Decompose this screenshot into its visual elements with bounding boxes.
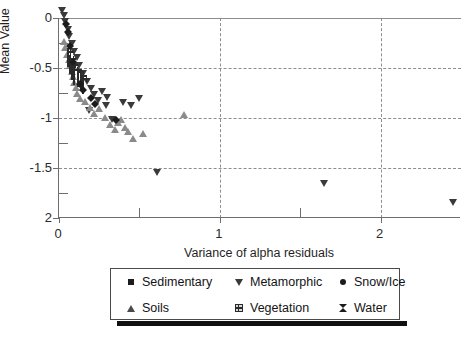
x-tick-label: 0 xyxy=(38,226,78,241)
x-minor-tick xyxy=(300,208,301,217)
grid-square-marker-icon xyxy=(235,304,243,312)
legend-swatch xyxy=(125,305,136,312)
x-minor-tick xyxy=(139,208,140,217)
y-tick-label: -0.5 xyxy=(10,60,52,75)
legend-swatch xyxy=(125,279,136,285)
legend-label: Soils xyxy=(142,301,169,315)
y-minor-tick xyxy=(59,143,68,144)
legend-item-metamorphic[interactable]: Metamorphic xyxy=(233,275,337,289)
legend-label: Water xyxy=(354,301,387,315)
legend-label: Metamorphic xyxy=(250,275,322,289)
circle-marker-icon xyxy=(340,279,346,285)
x-tick-label: 2 xyxy=(360,226,400,241)
triangle-down-marker-icon xyxy=(449,199,457,223)
legend-grid: SedimentaryMetamorphicSnow/IceSoilsVeget… xyxy=(111,269,401,321)
gridline-y-0 xyxy=(59,18,461,19)
y-tick xyxy=(53,68,59,69)
x-axis-title: Variance of alpha residuals xyxy=(58,246,460,260)
scatter-plot-figure: Mean Value Variance of alpha residuals 0… xyxy=(0,0,474,338)
x-tick xyxy=(220,217,221,223)
chart-legend: SedimentaryMetamorphicSnow/IceSoilsVeget… xyxy=(110,268,400,320)
triangle-up-marker-icon xyxy=(127,305,135,312)
triangle-down-marker-icon xyxy=(153,169,161,193)
legend-label: Sedimentary xyxy=(142,275,212,289)
x-tick xyxy=(381,217,382,223)
legend-swatch xyxy=(337,279,348,285)
y-minor-tick xyxy=(59,193,68,194)
gridline-y--1.5 xyxy=(59,168,461,169)
x-tick-label: 1 xyxy=(199,226,239,241)
legend-shadow xyxy=(117,321,407,326)
legend-item-soils[interactable]: Soils xyxy=(125,301,233,315)
triangle-up-marker-icon xyxy=(180,94,188,118)
y-tick xyxy=(53,118,59,119)
gridline-y--0.5 xyxy=(59,68,461,69)
square-marker-icon xyxy=(128,279,134,285)
y-tick-label: 2 xyxy=(10,210,52,225)
legend-label: Vegetation xyxy=(250,301,309,315)
y-tick xyxy=(53,168,59,169)
legend-item-vegetation[interactable]: Vegetation xyxy=(233,301,337,315)
triangle-up-marker-icon xyxy=(139,113,147,137)
triangle-down-marker-icon xyxy=(235,279,243,286)
bowtie-marker-icon xyxy=(339,304,347,312)
legend-swatch xyxy=(233,304,244,312)
legend-swatch xyxy=(233,279,244,286)
y-tick-label: -1 xyxy=(10,110,52,125)
legend-swatch xyxy=(337,304,348,312)
y-tick-label: 0 xyxy=(10,10,52,25)
legend-item-snow-ice[interactable]: Snow/Ice xyxy=(337,275,415,289)
plot-area xyxy=(58,18,460,218)
legend-item-water[interactable]: Water xyxy=(337,301,415,315)
legend-item-sedimentary[interactable]: Sedimentary xyxy=(125,275,233,289)
x-tick xyxy=(59,217,60,223)
gridline-x-2 xyxy=(381,18,382,218)
legend-label: Snow/Ice xyxy=(354,275,405,289)
y-minor-tick xyxy=(59,93,68,94)
y-tick-label: -1.5 xyxy=(10,160,52,175)
triangle-down-marker-icon xyxy=(320,180,328,204)
gridline-x-1 xyxy=(220,18,221,218)
triangle-up-marker-icon xyxy=(129,118,137,142)
